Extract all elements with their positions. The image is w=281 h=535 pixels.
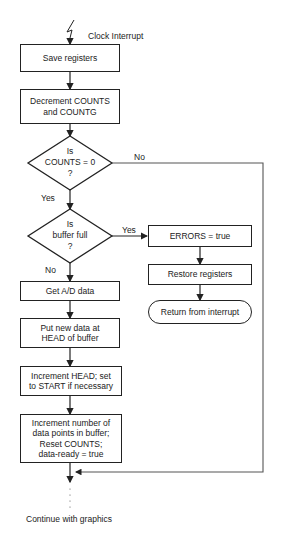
decrement-box: Decrement COUNTS and COUNTG xyxy=(20,89,120,124)
decision-buffer-text: Is buffer full ? xyxy=(40,219,100,252)
decrement-line-1: Decrement COUNTS xyxy=(30,96,110,107)
increment-head-line-2: to START if necessary xyxy=(29,381,113,392)
decision-counts-text: Is COUNTS = 0 ? xyxy=(40,146,100,179)
increment-points-box: Increment number of data points in buffe… xyxy=(20,414,122,463)
save-registers-box: Save registers xyxy=(20,44,120,72)
put-data-line-2: HEAD of buffer xyxy=(41,333,98,344)
increment-points-line-2: data points in buffer; xyxy=(33,428,110,439)
increment-head-box: Increment HEAD; set to START if necessar… xyxy=(20,366,122,396)
decision-buffer-line-2: buffer full xyxy=(40,230,100,241)
lightning-icon xyxy=(67,20,74,38)
decision-buffer-line-1: Is xyxy=(40,219,100,230)
errors-true-box: ERRORS = true xyxy=(148,225,252,247)
decrement-line-2: and COUNTG xyxy=(43,107,96,118)
branch-counts-yes: Yes xyxy=(41,193,55,203)
get-ad-data-box: Get A/D data xyxy=(20,281,120,301)
continue-with-graphics-label: Continue with graphics xyxy=(26,514,112,524)
decision-counts-line-2: COUNTS = 0 xyxy=(40,157,100,168)
restore-registers-box: Restore registers xyxy=(148,264,252,285)
branch-buffer-no: No xyxy=(45,265,56,275)
put-new-data-box: Put new data at HEAD of buffer xyxy=(20,318,120,348)
increment-points-line-1: Increment number of xyxy=(32,418,110,429)
put-data-line-1: Put new data at xyxy=(40,323,99,334)
return-from-interrupt-terminal: Return from interrupt xyxy=(148,300,252,324)
increment-points-line-3: Reset COUNTS; xyxy=(40,439,103,450)
decision-counts-line-1: Is xyxy=(40,146,100,157)
increment-points-line-4: data-ready = true xyxy=(39,449,104,460)
increment-head-line-1: Increment HEAD; set xyxy=(31,371,111,382)
branch-counts-no: No xyxy=(134,152,145,162)
decision-counts-line-3: ? xyxy=(40,168,100,179)
decision-buffer-line-3: ? xyxy=(40,241,100,252)
branch-buffer-yes: Yes xyxy=(122,225,136,235)
clock-interrupt-label: Clock Interrupt xyxy=(88,31,143,41)
